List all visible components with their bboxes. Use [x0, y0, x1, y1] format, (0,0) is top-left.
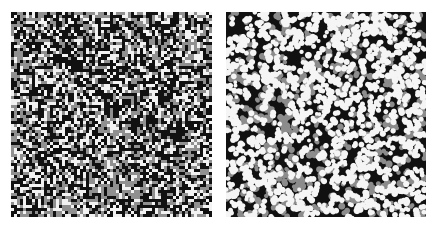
left-panel-canvas [11, 12, 212, 217]
right-panel [226, 12, 426, 217]
figure-root [0, 0, 438, 226]
left-panel [11, 12, 212, 217]
right-panel-canvas [226, 12, 426, 217]
